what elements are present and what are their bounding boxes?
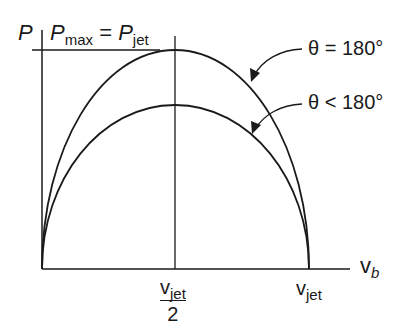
vb-symbol: v — [360, 253, 371, 278]
pmax-equation: Pmax = Pjet — [50, 22, 149, 44]
y-axis-label: P — [18, 22, 33, 44]
tick-half-vjet-numerator: vjet — [160, 277, 186, 301]
label-theta-lt-180: θ < 180° — [308, 92, 383, 112]
tick-half-vjet-denominator: 2 — [167, 301, 178, 324]
pmax-subscript: max — [65, 31, 93, 48]
x-axis-label: vb — [360, 255, 379, 277]
pjet-symbol: P — [118, 20, 133, 45]
pjet-subscript: jet — [133, 31, 149, 48]
tick-vjet: vjet — [296, 278, 322, 298]
tick-half-vjet: vjet 2 — [160, 277, 186, 324]
vb-subscript: b — [371, 264, 379, 281]
label-theta-180: θ = 180° — [308, 38, 383, 58]
arrow-theta-lt-180 — [256, 104, 302, 128]
arrowhead-icon — [250, 68, 260, 82]
pmax-symbol: P — [50, 20, 65, 45]
equals-sign: = — [99, 20, 112, 45]
arrow-theta-180 — [254, 49, 302, 76]
